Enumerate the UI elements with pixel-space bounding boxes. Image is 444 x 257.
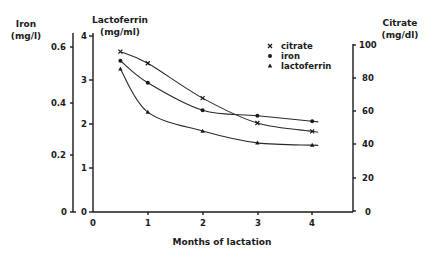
citrate-tick-label: 80 [362, 73, 374, 83]
dot-marker-icon [255, 114, 259, 118]
citrate-axis-title-line1: Citrate [383, 18, 418, 28]
legend-label: iron [281, 51, 300, 61]
lactoferrin-tick-label: 4 [81, 31, 87, 41]
lactoferrin-axis [89, 33, 93, 212]
citrate-tick-label: 100 [359, 40, 377, 50]
chart: Iron (mg/l) Lactoferrin (mg/ml) Citrate … [0, 0, 444, 257]
legend-item-lactoferrin: lactoferrin [268, 61, 332, 71]
iron-axis-title-line2: (mg/l) [11, 31, 41, 41]
x-tick-label: 3 [255, 218, 261, 228]
iron-axis [70, 33, 76, 212]
lactoferrin-tick-label: 0 [81, 207, 87, 217]
x-marker-icon [268, 44, 272, 48]
x-axis [93, 212, 353, 215]
x-marker-icon [146, 61, 150, 65]
citrate-tick-label: 40 [362, 139, 374, 149]
lactoferrin-tick-label: 1 [81, 163, 87, 173]
x-tick-label: 2 [200, 218, 206, 228]
triangle-marker-icon [118, 67, 122, 71]
iron-tick-label: 0.4 [51, 98, 66, 108]
citrate-tick-label: 0 [365, 207, 371, 217]
legend-label: lactoferrin [281, 61, 331, 71]
lactoferrin-tick-label: 3 [81, 75, 87, 85]
x-marker-icon [201, 96, 205, 100]
x-tick-label: 0 [90, 218, 96, 228]
iron-tick-label: 0 [61, 207, 67, 217]
legend-label: citrate [281, 41, 313, 51]
triangle-marker-icon [268, 64, 273, 68]
iron-tick-label: 0.6 [51, 42, 66, 52]
lactoferrin-tick-label: 2 [81, 119, 87, 129]
citrate-tick-label: 60 [362, 106, 374, 116]
legend-item-iron: iron [268, 51, 300, 61]
lactoferrin-axis-title-line2: (mg/ml) [100, 27, 140, 37]
legend: citrate iron lactoferrin [268, 41, 332, 71]
citrate-axis [353, 44, 356, 212]
dot-marker-icon [118, 59, 122, 63]
iron-axis-title-line1: Iron [16, 19, 36, 29]
x-tick-label: 1 [145, 218, 151, 228]
citrate-axis-title-line2: (mg/dl) [382, 30, 419, 40]
legend-item-citrate: citrate [268, 41, 313, 51]
dot-marker-icon [201, 108, 205, 112]
iron-tick-label: 0.2 [51, 150, 66, 160]
x-axis-title: Months of lactation [173, 237, 272, 247]
lactoferrin-axis-title-line1: Lactoferrin [92, 15, 148, 25]
citrate-tick-label: 20 [362, 173, 374, 183]
x-tick-label: 4 [309, 218, 315, 228]
dot-marker-icon [310, 119, 314, 123]
dot-marker-icon [268, 54, 272, 58]
dot-marker-icon [146, 81, 150, 85]
